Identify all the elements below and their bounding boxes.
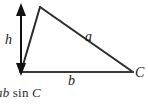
formula-angle: C [32, 85, 41, 100]
geometry-figure: h a b C ab sin C [0, 0, 148, 104]
height-arrow-head-down [16, 63, 26, 76]
formula-sin-function: sin [13, 85, 29, 100]
area-formula-caption: ab sin C [0, 85, 41, 101]
side-a-label: a [85, 30, 92, 44]
height-arrow-head-up [16, 3, 26, 16]
side-b-label: b [68, 74, 75, 88]
triangle-left-side [21, 7, 40, 72]
vertex-c-label: C [135, 66, 144, 80]
height-arrow [16, 3, 26, 76]
triangle-outline [20, 7, 133, 72]
formula-variables: ab [0, 85, 9, 100]
height-label: h [5, 33, 12, 47]
